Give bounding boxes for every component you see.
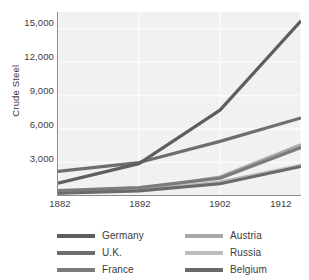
chart-figure: Crude Steel 15,000 12,000 9,000 6,000 3,… [0,0,309,280]
legend-swatch-icon [57,234,95,237]
series-lines [58,12,301,196]
y-axis-tick-label: 9,000 [10,86,54,96]
legend-item-russia[interactable]: Russia [185,245,305,261]
legend-label: France [102,265,134,275]
x-axis-tick-label: 1912 [261,199,301,209]
legend-column-right: Austria Russia Belgium [185,228,305,279]
legend-label: Germany [102,231,144,241]
legend-swatch-icon [57,268,95,271]
x-axis-tick-label: 1882 [40,199,80,209]
legend-swatch-icon [185,268,223,271]
y-axis-tick-label: 15,000 [10,18,54,28]
legend-label: U.K. [102,248,122,258]
y-axis-tick-label: 6,000 [10,120,54,130]
series-line-uk [58,118,301,172]
x-axis-line [57,195,301,196]
legend-item-austria[interactable]: Austria [185,228,305,244]
y-axis-tick-label: 12,000 [10,52,54,62]
legend-swatch-icon [185,234,223,237]
legend-label: Russia [230,248,261,258]
plot-area [58,12,301,196]
y-axis-tick-label: 3,000 [10,154,54,164]
x-axis-tick-label: 1892 [120,199,160,209]
legend-label: Austria [230,231,262,241]
y-axis-line [57,12,58,196]
chart-legend: Germany U.K. France Austria Russia [57,228,303,278]
series-line-france [58,147,301,190]
legend-swatch-icon [57,251,95,254]
legend-item-germany[interactable]: Germany [57,228,177,244]
x-axis-tick-label: 1902 [200,199,240,209]
legend-item-uk[interactable]: U.K. [57,245,177,261]
legend-item-belgium[interactable]: Belgium [185,262,305,278]
legend-item-france[interactable]: France [57,262,177,278]
legend-column-left: Germany U.K. France [57,228,177,279]
legend-swatch-icon [185,251,223,254]
legend-label: Belgium [230,265,267,275]
